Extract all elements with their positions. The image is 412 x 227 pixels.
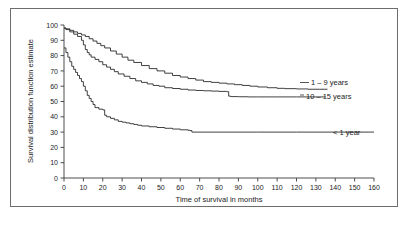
- y-tick-label: 20: [50, 144, 58, 151]
- y-tick-label: 0: [54, 175, 58, 182]
- x-tick-label: 160: [368, 184, 380, 191]
- x-tick-label: 50: [157, 184, 165, 191]
- x-tick-label: 60: [176, 184, 184, 191]
- y-tick-label: 50: [50, 98, 58, 105]
- survival-curve-0: [64, 28, 328, 89]
- x-tick-label: 30: [118, 184, 126, 191]
- y-tick-label: 100: [46, 22, 58, 29]
- x-tick-label: 110: [272, 184, 283, 191]
- y-tick-label: 70: [50, 68, 58, 75]
- survival-chart: 0102030405060708090100 01020304050607080…: [0, 0, 412, 227]
- x-axis-ticks: [64, 178, 374, 182]
- y-axis-title: Survival distribution function estimate: [26, 39, 35, 163]
- y-tick-label: 60: [50, 83, 58, 90]
- survival-curve-2: [64, 48, 374, 132]
- x-tick-label: 130: [310, 184, 322, 191]
- x-tick-label: 140: [329, 184, 341, 191]
- x-tick-label: 40: [138, 184, 146, 191]
- y-axis-ticks: [61, 25, 65, 178]
- x-tick-label: 0: [62, 184, 66, 191]
- x-tick-label: 80: [215, 184, 223, 191]
- x-axis-title: Time of survival in months: [176, 195, 263, 204]
- y-axis-tick-labels: 0102030405060708090100: [46, 22, 58, 182]
- x-tick-label: 120: [291, 184, 303, 191]
- x-tick-label: 20: [99, 184, 107, 191]
- x-tick-label: 150: [349, 184, 361, 191]
- series-label-10-15-years: 10 – 15 years: [306, 92, 352, 101]
- x-tick-label: 100: [252, 184, 264, 191]
- y-tick-label: 10: [50, 159, 58, 166]
- x-tick-label: 90: [234, 184, 242, 191]
- y-tick-label: 30: [50, 129, 58, 136]
- figure-container: 0102030405060708090100 01020304050607080…: [0, 0, 412, 227]
- y-tick-label: 80: [50, 52, 58, 59]
- x-axis-tick-labels: 0102030405060708090100110120130140150160: [62, 184, 380, 191]
- y-tick-label: 40: [50, 113, 58, 120]
- series-label-less-than-1-year: < 1 year: [333, 128, 361, 137]
- y-tick-label: 90: [50, 37, 58, 44]
- series-label-1-9-years: 1 – 9 years: [311, 78, 348, 87]
- x-tick-label: 70: [196, 184, 204, 191]
- x-tick-label: 10: [79, 184, 87, 191]
- survival-curve-1: [64, 28, 326, 97]
